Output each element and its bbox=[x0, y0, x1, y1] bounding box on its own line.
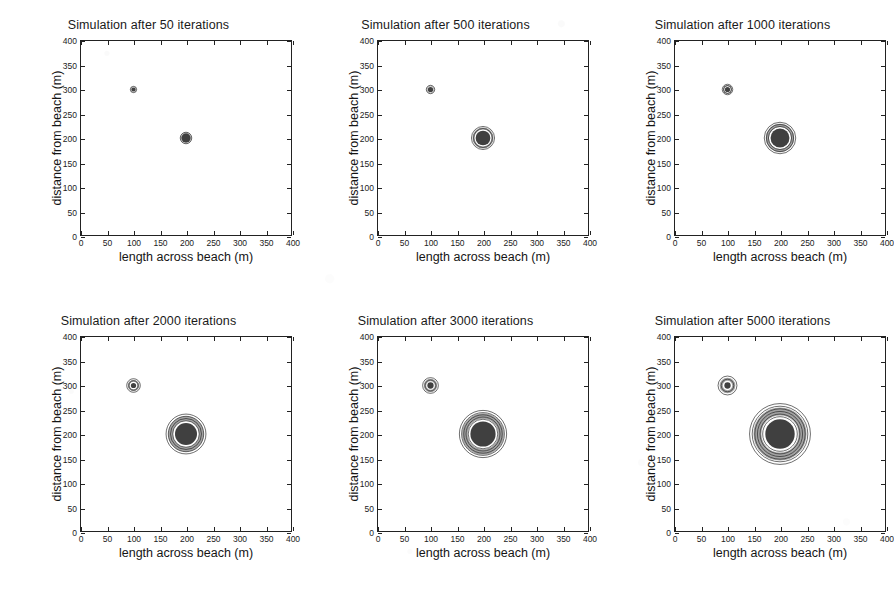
plume-core bbox=[724, 382, 730, 388]
y-tick-label: 350 bbox=[63, 61, 77, 71]
plot-axes-box: 0501001502002503003504000501001502002503… bbox=[377, 336, 589, 532]
y-axis-label: distance from beach (m) bbox=[50, 367, 64, 502]
x-tick-label: 0 bbox=[673, 238, 678, 248]
x-tick-label: 250 bbox=[206, 238, 220, 248]
contour-layer bbox=[378, 41, 588, 235]
plume-core bbox=[427, 382, 433, 388]
y-tick-label: 400 bbox=[360, 36, 374, 46]
y-tick-label: 50 bbox=[662, 208, 671, 218]
y-tick-label: 150 bbox=[657, 159, 671, 169]
x-tick-label: 150 bbox=[450, 238, 464, 248]
x-tick-label: 50 bbox=[697, 534, 706, 544]
x-tick-label: 150 bbox=[153, 238, 167, 248]
y-tick-label: 300 bbox=[63, 381, 77, 391]
y-tick-label: 0 bbox=[369, 528, 374, 538]
y-tick-label: 150 bbox=[63, 159, 77, 169]
x-tick-mark bbox=[887, 41, 888, 45]
x-tick-label: 150 bbox=[747, 238, 761, 248]
plot-axes-box: 0501001502002503003504000501001502002503… bbox=[377, 40, 589, 236]
x-tick-mark bbox=[293, 527, 294, 531]
x-tick-label: 100 bbox=[127, 534, 141, 544]
contour-layer bbox=[378, 337, 588, 531]
plot-axes-box: 0501001502002503003504000501001502002503… bbox=[674, 336, 886, 532]
x-tick-mark bbox=[590, 41, 591, 45]
x-tick-label: 250 bbox=[206, 534, 220, 544]
x-tick-label: 0 bbox=[79, 238, 84, 248]
chart-panel: Simulation after 500 iterations050100150… bbox=[297, 0, 594, 296]
plume-main-source bbox=[180, 132, 192, 144]
chart-panel: Simulation after 3000 iterations05010015… bbox=[297, 296, 594, 593]
y-tick-label: 50 bbox=[662, 504, 671, 514]
plot-wrapper: 0501001502002503003504000501001502002503… bbox=[0, 296, 297, 593]
plume-core bbox=[470, 421, 495, 446]
plume-core bbox=[725, 87, 730, 92]
y-tick-label: 100 bbox=[360, 479, 374, 489]
y-tick-mark bbox=[287, 237, 291, 238]
plot-axes-box: 0501001502002503003504000501001502002503… bbox=[80, 336, 292, 532]
y-tick-label: 300 bbox=[360, 381, 374, 391]
y-tick-label: 250 bbox=[657, 110, 671, 120]
x-tick-label: 100 bbox=[721, 534, 735, 544]
y-tick-mark bbox=[287, 533, 291, 534]
x-tick-label: 300 bbox=[530, 534, 544, 544]
contour-layer bbox=[81, 41, 291, 235]
y-tick-label: 350 bbox=[360, 357, 374, 367]
x-tick-mark bbox=[590, 337, 591, 341]
y-tick-label: 50 bbox=[68, 504, 77, 514]
y-tick-label: 150 bbox=[63, 455, 77, 465]
y-tick-label: 250 bbox=[360, 110, 374, 120]
x-tick-label: 250 bbox=[800, 238, 814, 248]
x-tick-label: 100 bbox=[127, 238, 141, 248]
y-tick-label: 200 bbox=[63, 134, 77, 144]
x-tick-mark bbox=[293, 41, 294, 45]
x-tick-label: 300 bbox=[233, 534, 247, 544]
x-tick-label: 250 bbox=[503, 534, 517, 544]
x-tick-label: 250 bbox=[503, 238, 517, 248]
x-axis-label: length across beach (m) bbox=[416, 546, 550, 560]
x-tick-label: 150 bbox=[153, 534, 167, 544]
y-tick-label: 50 bbox=[365, 504, 374, 514]
x-tick-label: 100 bbox=[721, 238, 735, 248]
y-tick-label: 200 bbox=[63, 430, 77, 440]
x-tick-label: 350 bbox=[259, 238, 273, 248]
y-tick-label: 400 bbox=[657, 36, 671, 46]
plot-wrapper: 0501001502002503003504000501001502002503… bbox=[297, 0, 594, 296]
y-tick-label: 350 bbox=[360, 61, 374, 71]
x-tick-label: 150 bbox=[747, 534, 761, 544]
y-tick-label: 350 bbox=[63, 357, 77, 367]
x-tick-label: 50 bbox=[103, 238, 112, 248]
x-tick-mark bbox=[590, 527, 591, 531]
y-tick-label: 100 bbox=[657, 183, 671, 193]
y-tick-label: 150 bbox=[360, 455, 374, 465]
y-tick-label: 200 bbox=[657, 134, 671, 144]
x-tick-mark bbox=[887, 231, 888, 235]
y-tick-mark bbox=[584, 237, 588, 238]
y-axis-label: distance from beach (m) bbox=[644, 71, 658, 206]
x-tick-label: 200 bbox=[477, 534, 491, 544]
y-tick-label: 400 bbox=[63, 332, 77, 342]
plot-wrapper: 0501001502002503003504000501001502002503… bbox=[594, 296, 891, 593]
y-tick-label: 300 bbox=[657, 85, 671, 95]
plume-minor-source bbox=[423, 378, 439, 394]
x-axis-label: length across beach (m) bbox=[119, 546, 253, 560]
plume-minor-source bbox=[130, 86, 136, 92]
x-tick-mark bbox=[590, 231, 591, 235]
plot-wrapper: 0501001502002503003504000501001502002503… bbox=[297, 296, 594, 593]
y-tick-label: 100 bbox=[63, 479, 77, 489]
x-tick-label: 300 bbox=[233, 238, 247, 248]
y-tick-mark bbox=[881, 533, 885, 534]
plume-core bbox=[131, 87, 135, 91]
x-tick-label: 200 bbox=[477, 238, 491, 248]
y-tick-mark bbox=[881, 237, 885, 238]
x-tick-label: 0 bbox=[376, 238, 381, 248]
x-tick-label: 200 bbox=[774, 238, 788, 248]
y-tick-label: 50 bbox=[365, 208, 374, 218]
y-tick-label: 400 bbox=[63, 36, 77, 46]
chart-panel: Simulation after 2000 iterations05010015… bbox=[0, 296, 297, 593]
contour-layer bbox=[675, 337, 885, 531]
plume-core bbox=[175, 423, 197, 445]
y-axis-label: distance from beach (m) bbox=[50, 71, 64, 206]
y-tick-label: 350 bbox=[657, 61, 671, 71]
x-tick-label: 400 bbox=[880, 238, 894, 248]
